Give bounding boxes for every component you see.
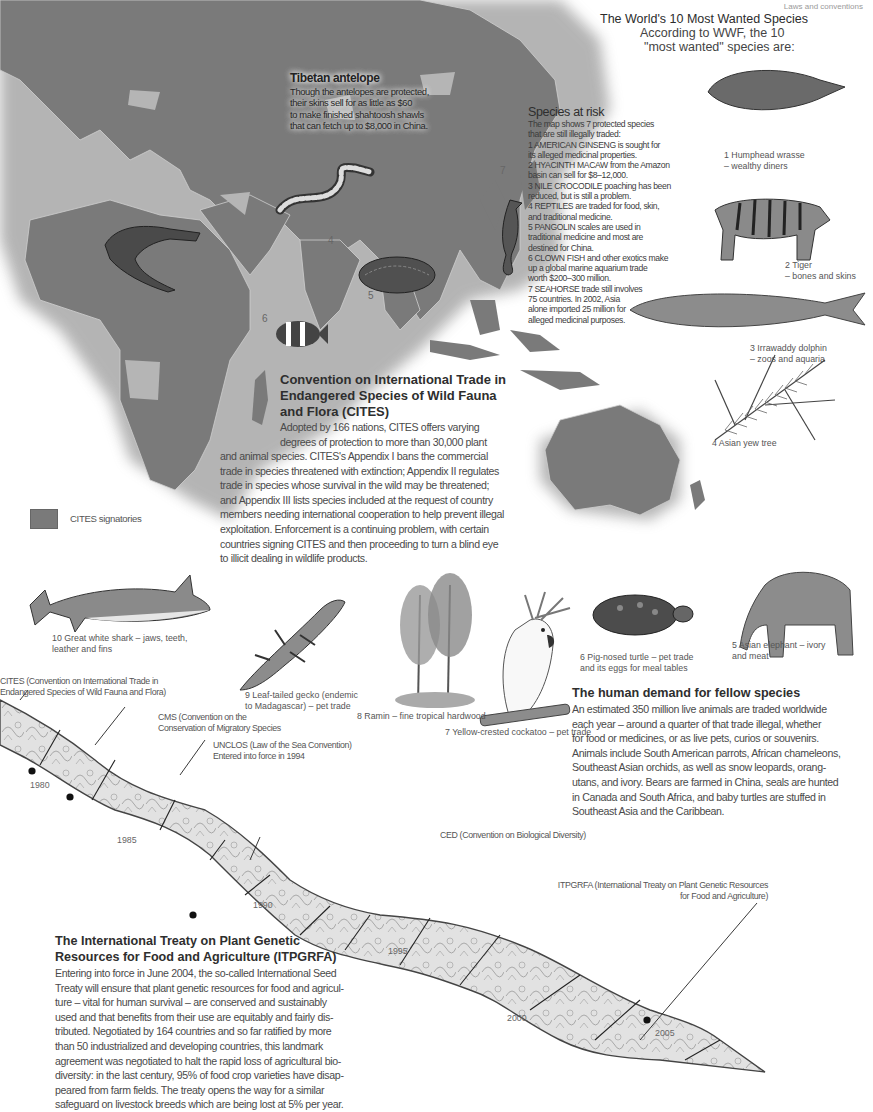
risk-line: 4 REPTILES are traded for food, skin,: [528, 201, 718, 211]
yellow-crested-cockatoo-illustration: [475, 590, 575, 730]
asian-yew-tree-illustration: [705, 340, 845, 450]
clown-fish-illustration: [272, 316, 330, 352]
snake-illustration: [275, 160, 375, 220]
map-marker-6: 6: [262, 313, 268, 324]
risk-line: 6 CLOWN FISH and other exotics make: [528, 253, 718, 263]
species-caption-4: 4 Asian yew tree: [712, 438, 777, 449]
legend-swatch-signatory: [30, 509, 58, 529]
map-marker-7: 7: [500, 165, 506, 176]
timeline-year-1980: 1980: [30, 780, 50, 790]
risk-line: worth $200–300 million.: [528, 273, 718, 283]
risk-line: up a global marine aquarium trade: [528, 263, 718, 273]
species-caption-8: 8 Ramin – fine tropical hardwood: [357, 711, 486, 722]
human-demand-title: The human demand for fellow species: [572, 685, 872, 701]
timeline-year-2005: 2005: [655, 1028, 675, 1038]
cites-heading: Convention on International Trade in End…: [280, 372, 560, 420]
species-caption-5: 5 Asian elephant – ivory and meat: [732, 640, 825, 661]
risk-line: its alleged medicinal properties.: [528, 150, 718, 160]
timeline-year-1985: 1985: [117, 835, 137, 845]
timeline-event-unclos: UNCLOS (Law of the Sea Convention) Enter…: [213, 740, 352, 761]
pangolin-illustration: [355, 250, 440, 300]
seahorse-illustration: [490, 195, 530, 280]
map-marker-4: 4: [328, 235, 334, 246]
leaf-tailed-gecko-illustration: [230, 590, 350, 700]
species-caption-2: 2 Tiger – bones and skins: [785, 260, 856, 281]
great-white-shark-illustration: [25, 570, 215, 640]
risk-line: traditional medicine and most are: [528, 232, 718, 242]
itpgrfa-panel: The International Treaty on Plant Geneti…: [55, 933, 355, 1112]
risk-line: The map shows 7 protected species: [528, 119, 718, 129]
timeline-event-ced: CED (Convention on Biological Diversity): [440, 830, 586, 841]
tibetan-line: to make finished shahtoosh shawls: [290, 109, 510, 120]
human-demand-panel: The human demand for fellow species An e…: [572, 685, 872, 819]
risk-line: 1 AMERICAN GINSENG is sought for: [528, 140, 718, 150]
pig-nosed-turtle-illustration: [585, 590, 695, 645]
species-caption-6: 6 Pig-nosed turtle – pet trade and its e…: [580, 652, 693, 673]
nile-crocodile-illustration: [100, 215, 205, 295]
tibetan-title: Tibetan antelope: [290, 70, 510, 86]
species-caption-9: 9 Leaf-tailed gecko (endemic to Madagasc…: [245, 690, 358, 711]
timeline-year-1990: 1990: [253, 900, 273, 910]
tiger-illustration: [705, 185, 835, 265]
timeline-year-2000: 2000: [507, 1013, 527, 1023]
page-folio: Laws and conventions: [784, 2, 863, 11]
tibetan-line: that can fetch up to $8,000 in China.: [290, 120, 510, 131]
humphead-wrasse-illustration: [700, 62, 850, 122]
risk-line: and traditional medicine.: [528, 212, 718, 222]
risk-line: basin can sell for $8–12,000.: [528, 170, 718, 180]
risk-line: 3 NILE CROCODILE poaching has been: [528, 181, 718, 191]
species-at-risk-title: Species at risk: [528, 105, 718, 119]
timeline-year-1995: 1995: [388, 946, 408, 956]
risk-line: reduced, but is still a problem.: [528, 191, 718, 201]
species-caption-10: 10 Great white shark – jaws, teeth, leat…: [52, 633, 187, 654]
timeline-event-cms: CMS (Convention on the Conservation of M…: [158, 712, 281, 733]
irrawaddy-dolphin-illustration: [625, 285, 870, 340]
risk-line: destined for China.: [528, 243, 718, 253]
risk-line: 5 PANGOLIN scales are used in: [528, 222, 718, 232]
most-wanted-intro-2: "most wanted" species are:: [600, 40, 870, 54]
tibetan-line: Though the antelopes are protected,: [290, 86, 510, 97]
species-caption-7: 7 Yellow-crested cockatoo – pet trade: [445, 727, 591, 738]
map-legend: CITES signatories: [30, 509, 141, 529]
most-wanted-title: The World's 10 Most Wanted Species: [600, 12, 870, 26]
most-wanted-header: The World's 10 Most Wanted Species Accor…: [600, 12, 870, 54]
cites-body-part2: and animal species. CITES's Appendix I b…: [220, 449, 580, 566]
species-caption-1: 1 Humphead wrasse – wealthy diners: [724, 150, 805, 171]
risk-line: that are still illegally traded:: [528, 129, 718, 139]
cites-body-part1: Adopted by 166 nations, CITES offers var…: [280, 420, 580, 449]
tibetan-antelope-note: Tibetan antelope Though the antelopes ar…: [290, 70, 510, 132]
legend-label: CITES signatories: [70, 514, 141, 525]
risk-line: 2 HYACINTH MACAW from the Amazon: [528, 160, 718, 170]
ramin-tree-illustration: [390, 565, 480, 710]
timeline-event-itpgrfa: ITPGRFA (International Treaty on Plant G…: [548, 880, 768, 901]
timeline-event-cites: CITES (Convention on International Trade…: [0, 676, 166, 697]
tibetan-line: their skins sell for as little as $60: [290, 97, 510, 108]
most-wanted-intro-1: According to WWF, the 10: [600, 26, 870, 40]
